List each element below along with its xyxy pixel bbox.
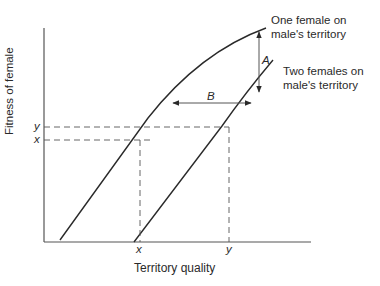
y-tick-upper: y: [34, 120, 40, 133]
curve1-label-line2: male's territory: [271, 28, 346, 41]
y-axis-label: Fitness of female: [3, 47, 15, 135]
arrow-b-label: B: [207, 90, 215, 103]
arrow-a-label: A: [262, 54, 270, 67]
diagram-canvas: [0, 0, 380, 286]
x-axis-label: Territory quality: [134, 262, 215, 275]
curve-two-females: [134, 60, 273, 242]
y-tick-lower: x: [34, 133, 40, 146]
x-tick-left: x: [136, 243, 142, 256]
curve2-label-line1: Two females on: [283, 65, 364, 78]
x-tick-right: y: [226, 243, 232, 256]
curve1-label-line1: One female on: [271, 14, 346, 27]
curve-one-female: [60, 28, 266, 240]
curve2-label-line2: male's territory: [283, 79, 358, 92]
